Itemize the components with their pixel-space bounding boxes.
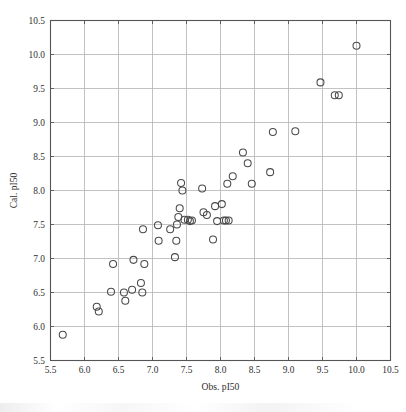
data-point [130, 256, 137, 263]
x-axis-title: Obs. pI50 [202, 381, 240, 392]
data-point [335, 92, 342, 99]
data-point [141, 260, 148, 267]
data-point [269, 129, 276, 136]
x-tick-label: 7.0 [147, 365, 159, 375]
data-point [210, 236, 217, 243]
data-point [244, 160, 251, 167]
data-point [173, 237, 180, 244]
x-tick-label: 5.5 [45, 365, 57, 375]
data-point [239, 149, 246, 156]
data-point [167, 226, 174, 233]
plot-canvas: 5.56.06.57.07.58.08.59.09.510.010.5 5.56… [0, 0, 406, 412]
data-point [176, 205, 183, 212]
data-point [331, 92, 338, 99]
data-point [137, 279, 144, 286]
scatter-plot-figure: 5.56.06.57.07.58.08.59.09.510.010.5 5.56… [0, 0, 406, 412]
y-tick-label: 7.0 [33, 254, 45, 264]
y-tick-label: 8.0 [33, 186, 45, 196]
data-point [229, 173, 236, 180]
data-point [178, 180, 185, 187]
y-tick-label: 8.5 [33, 152, 45, 162]
x-tick-label: 6.0 [79, 365, 91, 375]
data-point [122, 297, 129, 304]
data-point [155, 237, 162, 244]
y-tick-label: 7.5 [33, 220, 45, 230]
y-axis-title: Cal. pI50 [8, 172, 19, 208]
y-tick-label: 6.5 [33, 288, 45, 298]
x-tick-label: 10.0 [348, 365, 365, 375]
y-tick-label: 10.5 [29, 16, 46, 26]
y-tick-label: 6.0 [33, 322, 45, 332]
data-point [224, 180, 231, 187]
x-tick-label: 8.0 [215, 365, 227, 375]
x-tick-label: 7.5 [181, 365, 193, 375]
x-axis-tick-labels: 5.56.06.57.07.58.08.59.09.510.010.5 [45, 365, 399, 375]
x-tick-label: 8.5 [249, 365, 261, 375]
y-tick-label: 5.5 [33, 356, 45, 366]
y-tick-label: 10.0 [29, 50, 46, 60]
data-point [218, 201, 225, 208]
data-point [110, 260, 117, 267]
x-tick-label: 6.5 [113, 365, 125, 375]
data-point [214, 218, 221, 225]
data-point [108, 288, 115, 295]
data-point [267, 169, 274, 176]
y-axis-tick-labels: 5.56.06.57.07.58.08.59.09.510.010.5 [29, 16, 46, 366]
x-tick-label: 10.5 [382, 365, 399, 375]
x-tick-label: 9.5 [317, 365, 329, 375]
data-point [212, 203, 219, 210]
x-tick-label: 9.0 [283, 365, 295, 375]
data-point [139, 226, 146, 233]
data-point [154, 222, 161, 229]
y-tick-label: 9.5 [33, 84, 45, 94]
data-point [171, 254, 178, 261]
data-point [292, 128, 299, 135]
y-tick-label: 9.0 [33, 118, 45, 128]
data-point [59, 331, 66, 338]
